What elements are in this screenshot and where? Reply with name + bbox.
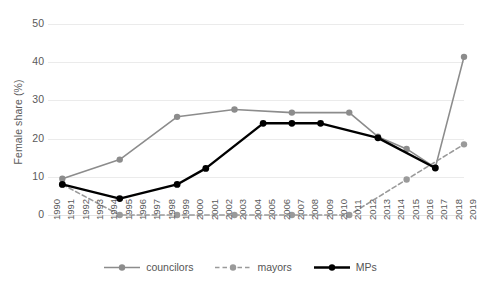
y-tick-label: 10 (18, 171, 44, 182)
data-point-councilors-2019 (461, 54, 467, 60)
x-tick-label: 1990 (52, 199, 62, 220)
data-point-councilors-1995 (117, 156, 123, 162)
data-point-MPs-2013 (375, 134, 382, 141)
x-tick-label: 2012 (368, 199, 378, 220)
series-layer (48, 24, 464, 215)
x-tick-label: 2015 (411, 199, 421, 220)
x-tick-label: 2017 (439, 199, 449, 220)
data-point-mayors-2019 (461, 141, 467, 147)
data-point-MPs-2005 (260, 120, 267, 127)
legend-item-MPs[interactable]: MPs (313, 262, 377, 273)
x-tick-label: 2007 (296, 199, 306, 220)
x-tick-label: 1999 (181, 199, 191, 220)
legend-label-councilors: councilors (146, 262, 193, 273)
x-tick-label: 2009 (325, 199, 335, 220)
legend-label-MPs: MPs (356, 262, 377, 273)
x-tick-label: 2019 (468, 199, 478, 220)
x-tick-label: 2002 (224, 199, 234, 220)
y-axis-tick-labels: 01020304050 (18, 0, 44, 282)
y-tick-label: 20 (18, 133, 44, 144)
data-point-councilors-2011 (346, 109, 352, 115)
y-tick-label: 50 (18, 18, 44, 29)
x-tick-label: 1996 (138, 199, 148, 220)
x-tick-label: 1997 (152, 199, 162, 220)
data-point-MPs-1991 (59, 181, 66, 188)
data-point-councilors-2007 (289, 109, 295, 115)
data-point-MPs-1999 (174, 181, 181, 188)
legend-item-mayors[interactable]: mayors (214, 262, 291, 273)
chart-legend: councilorsmayorsMPs (0, 256, 480, 278)
x-tick-label: 1992 (81, 199, 91, 220)
x-tick-label: 2010 (339, 199, 349, 220)
x-tick-label: 2003 (238, 199, 248, 220)
x-tick-label: 2018 (454, 199, 464, 220)
data-point-councilors-1999 (174, 114, 180, 120)
line-chart: Female share (%) 01020304050 19901991199… (0, 0, 480, 282)
data-point-MPs-2001 (202, 165, 209, 172)
legend-marker-councilors (103, 262, 141, 273)
data-point-councilors-1991 (59, 176, 65, 182)
x-tick-label: 2008 (310, 199, 320, 220)
legend-label-mayors: mayors (257, 262, 291, 273)
x-tick-label: 2001 (210, 199, 220, 220)
x-tick-label: 2006 (282, 199, 292, 220)
x-tick-label: 1993 (95, 199, 105, 220)
x-tick-label: 2011 (353, 200, 363, 220)
data-point-councilors-2003 (231, 106, 237, 112)
x-tick-label: 2000 (195, 199, 205, 220)
x-tick-label: 2014 (396, 199, 406, 220)
x-tick-label: 1991 (66, 199, 76, 220)
legend-marker-mayors (214, 262, 252, 273)
data-point-MPs-2009 (317, 120, 324, 127)
plot-area (48, 24, 464, 215)
y-tick-label: 30 (18, 94, 44, 105)
x-tick-label: 1994 (109, 199, 119, 220)
y-tick-label: 40 (18, 56, 44, 67)
legend-item-councilors[interactable]: councilors (103, 262, 193, 273)
x-tick-label: 2004 (253, 199, 263, 220)
data-point-MPs-2017 (432, 165, 439, 172)
x-axis-tick-labels: 1990199119921993199419951996199719981999… (48, 218, 464, 258)
data-point-MPs-2007 (288, 120, 295, 127)
x-tick-label: 1998 (167, 199, 177, 220)
x-tick-label: 2005 (267, 199, 277, 220)
y-tick-label: 0 (18, 209, 44, 220)
x-tick-label: 1995 (124, 199, 134, 220)
x-tick-label: 2016 (425, 199, 435, 220)
x-tick-label: 2013 (382, 199, 392, 220)
legend-marker-MPs (313, 262, 351, 273)
data-point-mayors-2015 (403, 176, 409, 182)
